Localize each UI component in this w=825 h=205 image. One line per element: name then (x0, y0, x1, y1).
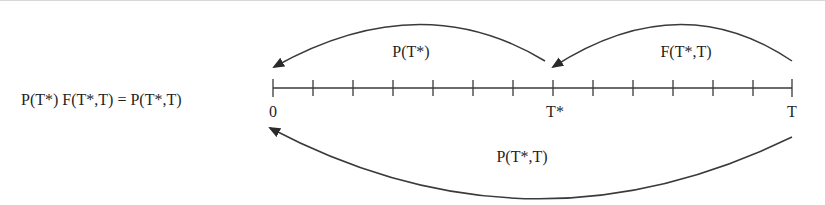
arrow-label-p-tstar-t: P(T*,T) (496, 149, 547, 165)
axis-label-tstar: T* (546, 104, 564, 120)
arrow-label-f-tstar-t: F(T*,T) (660, 44, 711, 60)
arrow-label-p-tstar: P(T*) (392, 44, 429, 60)
axis-label-t: T (787, 104, 797, 120)
equation-label: P(T*) F(T*,T) = P(T*,T) (21, 92, 182, 108)
axis-label-zero: 0 (269, 104, 277, 120)
